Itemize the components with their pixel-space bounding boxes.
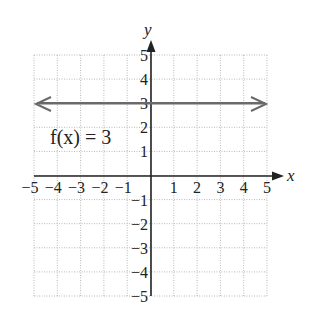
y-tick-label: 1 <box>140 143 148 160</box>
y-tick-label: −1 <box>131 192 148 209</box>
y-tick-label: −3 <box>131 240 148 257</box>
x-tick-label: −1 <box>115 179 132 196</box>
y-tick-label: 2 <box>140 119 148 136</box>
x-tick-label: −3 <box>68 179 85 196</box>
x-tick-label: 4 <box>240 179 248 196</box>
x-axis-label: x <box>286 166 295 185</box>
x-tick-label: −2 <box>91 179 108 196</box>
y-axis-label: y <box>142 20 152 39</box>
y-tick-label: −5 <box>131 288 148 305</box>
y-tick-label: 4 <box>140 71 148 88</box>
x-tick-label: −4 <box>45 179 62 196</box>
x-tick-label: 3 <box>216 179 224 196</box>
x-tick-label: 1 <box>170 179 178 196</box>
y-tick-label: 5 <box>140 47 148 64</box>
y-tick-label: −4 <box>131 264 148 281</box>
x-tick-label: −5 <box>21 179 38 196</box>
y-tick-label: −2 <box>131 216 148 233</box>
x-axis-arrow-icon <box>272 172 284 181</box>
function-label: f(x) = 3 <box>50 126 111 149</box>
coordinate-plane: x y −5−4−3−2−112345 54321−1−2−3−4−5 f(x)… <box>0 0 311 316</box>
x-tick-label: 2 <box>193 179 201 196</box>
x-tick-label: 5 <box>263 179 271 196</box>
